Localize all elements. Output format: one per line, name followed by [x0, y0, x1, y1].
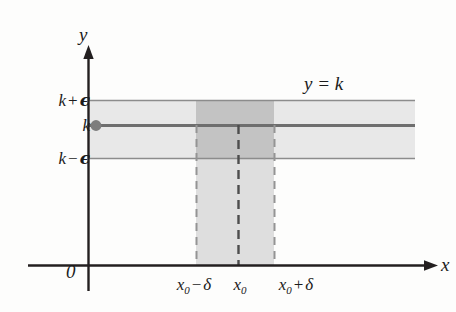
- y-tick-operator: +: [66, 91, 80, 110]
- epsilon-delta-limit-diagram: y x 0 y = k k+ϵ k k−ϵ x0−δ x0 x0+δ: [0, 0, 456, 312]
- y-tick-base: k: [59, 149, 67, 168]
- x-axis-arrowhead: [424, 260, 438, 270]
- y-tick-label-k-minus-epsilon: k−ϵ: [59, 150, 91, 167]
- band-strip-overlap: [196, 100, 274, 158]
- y-tick-label-k-plus-epsilon: k+ϵ: [59, 92, 91, 109]
- x-tick-operator: −: [190, 275, 204, 294]
- delta-symbol: δ: [203, 275, 211, 294]
- x-tick-label-x0: x0: [233, 276, 246, 296]
- point-k-marker: [91, 120, 102, 131]
- x-tick-label-x0-plus-delta: x0+δ: [279, 276, 314, 296]
- x-tick-label-x0-minus-delta: x0−δ: [177, 276, 212, 296]
- curve-label-y-equals-k: y = k: [304, 74, 343, 93]
- epsilon-symbol: ϵ: [80, 90, 90, 110]
- x-tick-base: x: [279, 275, 287, 294]
- y-tick-base: k: [82, 116, 90, 135]
- x-axis-label: x: [441, 255, 449, 274]
- x-tick-operator: +: [292, 275, 306, 294]
- y-tick-label-k: k: [82, 117, 90, 134]
- y-axis-label: y: [79, 25, 87, 44]
- epsilon-symbol: ϵ: [80, 148, 90, 168]
- y-axis-arrowhead: [83, 45, 93, 59]
- x-tick-subscript: 0: [241, 284, 247, 296]
- y-tick-operator: −: [66, 149, 80, 168]
- x-tick-base: x: [233, 275, 241, 294]
- y-tick-base: k: [59, 91, 67, 110]
- x-tick-base: x: [177, 275, 185, 294]
- delta-symbol: δ: [305, 275, 313, 294]
- origin-label: 0: [66, 262, 76, 281]
